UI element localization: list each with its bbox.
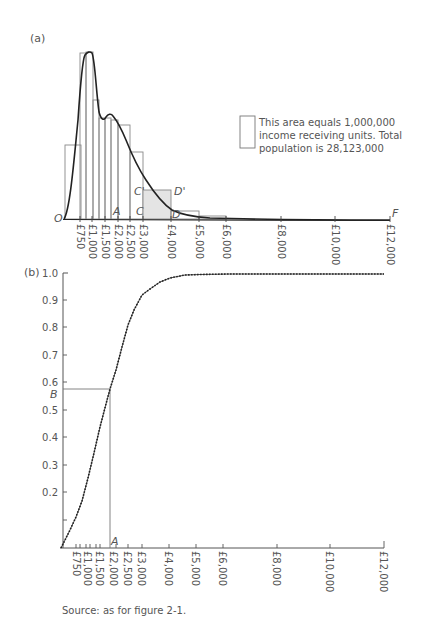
panel-a-tick-labels: £750 £1,000 £1,500 £2,000 £2,500 £3,000 … — [75, 224, 396, 265]
svg-text:£1,000: £1,000 — [87, 224, 98, 259]
svg-text:0.6: 0.6 — [42, 377, 58, 388]
svg-text:0.2: 0.2 — [42, 487, 58, 498]
label-F: F — [392, 207, 399, 220]
svg-text:£5,000: £5,000 — [190, 551, 201, 586]
svg-text:0.8: 0.8 — [42, 322, 58, 333]
panel-b-y-ticks — [63, 300, 67, 520]
svg-text:£8,000: £8,000 — [271, 551, 282, 586]
svg-text:0.4: 0.4 — [42, 432, 58, 443]
svg-text:£8,000: £8,000 — [276, 224, 287, 259]
panel-b-y-tick-labels: 1.0 0.9 0.8 0.7 0.6 0.5 0.4 0.3 0.2 — [42, 268, 58, 498]
svg-text:0.3: 0.3 — [42, 460, 58, 471]
label-A-a: A — [112, 205, 121, 218]
svg-text:£750: £750 — [75, 224, 86, 249]
panel-a-label: (a) — [30, 32, 45, 45]
source-caption: Source: as for figure 2-1. — [62, 605, 186, 616]
svg-text:£1,500: £1,500 — [100, 224, 111, 259]
label-O: O — [54, 212, 63, 225]
svg-text:£2,500: £2,500 — [122, 551, 133, 586]
svg-text:£1,500: £1,500 — [94, 551, 105, 586]
legend-swatch — [240, 116, 255, 148]
svg-text:0.7: 0.7 — [42, 350, 58, 361]
svg-text:£4,000: £4,000 — [166, 224, 177, 259]
svg-text:£2,000: £2,000 — [108, 551, 119, 586]
svg-text:£2,000: £2,000 — [113, 224, 124, 259]
legend-text: This area equals 1,000,000 income receiv… — [259, 116, 427, 155]
svg-text:£750: £750 — [71, 551, 82, 576]
svg-text:£6,000: £6,000 — [217, 551, 228, 586]
svg-text:1.0: 1.0 — [42, 268, 58, 279]
svg-text:£5,000: £5,000 — [194, 224, 205, 259]
bar-1000-1250 — [93, 100, 99, 219]
panel-b-x-tick-labels: £750 £1,000 £1,500 £2,000 £2,500 £3,000 … — [71, 551, 389, 592]
svg-text:£6,000: £6,000 — [221, 224, 232, 259]
svg-text:£12,000: £12,000 — [378, 551, 389, 592]
panel-b-label: (b) — [24, 266, 40, 279]
figure: (a) F O A C C' D' D — [0, 0, 427, 640]
svg-text:£1,000: £1,000 — [82, 551, 93, 586]
panel-b-x-ticks — [76, 541, 384, 548]
histogram-bars — [65, 52, 226, 219]
svg-text:£10,000: £10,000 — [324, 551, 335, 592]
label-C-prime: C' — [134, 185, 145, 198]
svg-text:0.5: 0.5 — [42, 405, 58, 416]
label-D: D — [172, 208, 180, 221]
svg-text:£10,000: £10,000 — [330, 224, 341, 265]
svg-text:£3,000: £3,000 — [136, 551, 147, 586]
svg-text:£3,000: £3,000 — [138, 224, 149, 259]
bar-1500-1750 — [105, 118, 111, 219]
svg-text:£2,500: £2,500 — [125, 224, 136, 259]
svg-text:£4,000: £4,000 — [163, 551, 174, 586]
label-D-prime: D' — [174, 185, 186, 198]
bar-1250-1500 — [99, 118, 105, 219]
label-B: B — [50, 388, 58, 401]
svg-text:0.9: 0.9 — [42, 295, 58, 306]
label-A-b: A — [110, 535, 119, 548]
svg-text:£12,000: £12,000 — [385, 224, 396, 265]
cumulative-curve — [61, 274, 384, 548]
bar-875-1000 — [86, 52, 93, 219]
